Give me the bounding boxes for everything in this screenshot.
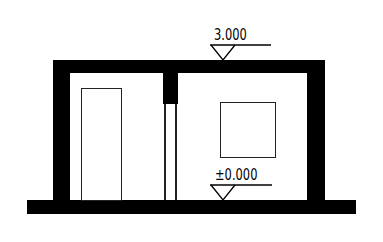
roof-elevation-label: 3.000 — [214, 28, 247, 43]
floor-elevation-marker — [210, 185, 272, 200]
elevation-markers — [0, 0, 383, 242]
roof-elevation-marker — [210, 45, 271, 60]
floor-elevation-label: ±0.000 — [215, 168, 257, 183]
